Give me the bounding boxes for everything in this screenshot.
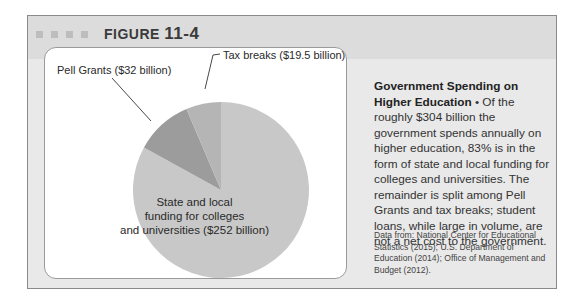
header-square-icon bbox=[36, 31, 43, 38]
header-square-icon bbox=[51, 31, 58, 38]
caption-bullet: • bbox=[472, 95, 483, 109]
state-label-line: State and local bbox=[107, 195, 282, 209]
figure-number: 11-4 bbox=[164, 24, 199, 43]
tax-label: Tax breaks ($19.5 billion) bbox=[223, 49, 345, 61]
pie-chart bbox=[45, 48, 347, 279]
state-label: State and local funding for colleges and… bbox=[107, 195, 282, 237]
figure-label: FIGURE bbox=[104, 26, 160, 42]
header-square-icon bbox=[66, 31, 73, 38]
state-label-line: and universities ($252 billion) bbox=[107, 223, 282, 237]
pell-leader-line bbox=[112, 78, 151, 121]
data-source: Data from: National Center for Education… bbox=[374, 230, 552, 276]
state-label-line: funding for colleges bbox=[107, 209, 282, 223]
chart-panel: Pell Grants ($32 billion) Tax breaks ($1… bbox=[44, 47, 347, 279]
figure-title: FIGURE 11-4 bbox=[104, 24, 199, 44]
caption-body: Of the roughly $304 billion the governme… bbox=[374, 95, 549, 249]
header-square-icon bbox=[81, 31, 88, 38]
tax-leader-line bbox=[205, 54, 220, 89]
pell-label: Pell Grants ($32 billion) bbox=[57, 64, 171, 76]
caption: Government Spending on Higher Education … bbox=[374, 79, 550, 250]
figure-frame: FIGURE 11-4 Pell Grants ($32 billion) Ta… bbox=[27, 15, 557, 289]
